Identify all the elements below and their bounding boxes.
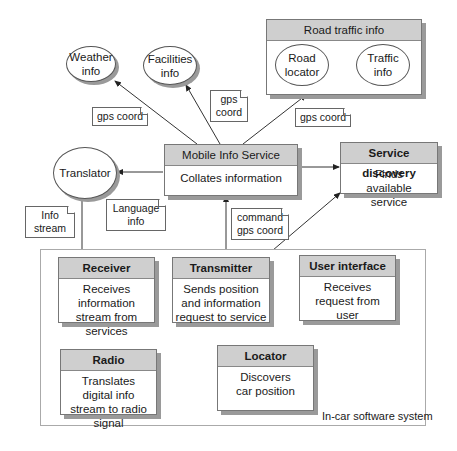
mobile-info-service-box[interactable]: Mobile Info Service Collates information <box>164 144 298 196</box>
receiver-box[interactable]: Receiver Receives information stream fro… <box>58 257 155 323</box>
radio-description: Translates digital info stream to radio … <box>61 371 156 430</box>
facilities-info-node[interactable]: Facilities info <box>143 46 197 85</box>
transmitter-title: Transmitter <box>173 258 269 279</box>
mobile-info-service-title: Mobile Info Service <box>165 145 297 166</box>
user-interface-box[interactable]: User interface Receives request from use… <box>299 255 396 321</box>
user-interface-title: User interface <box>300 256 395 277</box>
locator-title: Locator <box>218 346 313 367</box>
user-interface-description: Receives request from user <box>300 277 395 322</box>
facilities-info-label: Facilities info <box>145 52 195 80</box>
gps-coord-weather-note: gps coord <box>92 107 148 126</box>
gps-coord-road-note: gps coord <box>295 108 351 127</box>
receiver-description: Receives information stream from service… <box>59 279 154 338</box>
radio-box[interactable]: Radio Translates digital info stream to … <box>60 349 157 415</box>
road-locator-node[interactable]: Road locator <box>275 44 329 86</box>
receiver-title: Receiver <box>59 258 154 279</box>
command-gps-coord-note: command gps coord <box>231 208 289 240</box>
translator-label: Translator <box>59 166 110 180</box>
language-info-note: Language info <box>106 199 166 231</box>
locator-description: Discovers car position <box>218 367 313 398</box>
traffic-info-node[interactable]: Traffic info <box>356 44 410 86</box>
gps-coord-facilities-note: gps coord <box>210 90 248 122</box>
weather-info-label: Weather info <box>69 50 113 78</box>
locator-box[interactable]: Locator Discovers car position <box>217 345 314 411</box>
traffic-info-label: Traffic info <box>363 51 403 79</box>
radio-title: Radio <box>61 350 156 371</box>
translator-node[interactable]: Translator <box>53 147 117 199</box>
road-traffic-info-title: Road traffic info <box>267 20 421 41</box>
transmitter-box[interactable]: Transmitter Sends position and informati… <box>172 257 270 323</box>
transmitter-description: Sends position and information request t… <box>173 279 269 324</box>
road-locator-label: Road locator <box>279 51 325 79</box>
service-discovery-description: Finds available service <box>341 164 437 209</box>
in-car-system-label: In-car software system <box>322 410 433 422</box>
info-stream-note: Info stream <box>25 206 75 238</box>
service-discovery-box[interactable]: Service discovery Finds available servic… <box>340 142 438 194</box>
mobile-info-service-description: Collates information <box>165 166 297 185</box>
weather-info-node[interactable]: Weather info <box>66 46 116 82</box>
service-discovery-title: Service discovery <box>341 143 437 164</box>
